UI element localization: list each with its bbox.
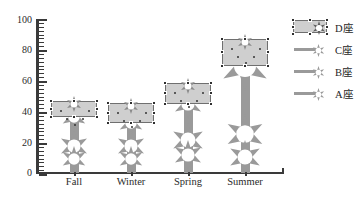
x-tick-label-summer: Summer: [215, 176, 275, 187]
legend-swatch: [292, 63, 332, 79]
selection-handle[interactable]: [49, 115, 53, 119]
data-point-dot: [117, 112, 119, 114]
selection-handle[interactable]: [106, 101, 110, 105]
y-tick-label: 80: [2, 45, 32, 55]
selection-handle[interactable]: [72, 99, 76, 103]
legend-label: C座: [335, 42, 352, 57]
y-tick-label: 60: [2, 76, 32, 86]
y-tick-label: 40: [2, 107, 32, 117]
selection-handle[interactable]: [243, 37, 247, 41]
legend-swatch: [292, 41, 332, 57]
selection-handle[interactable]: [163, 91, 167, 95]
selection-handle[interactable]: [220, 37, 224, 41]
selection-handle[interactable]: [308, 18, 312, 22]
star-marker-icon: [173, 140, 203, 170]
x-tick-label-spring: Spring: [158, 176, 218, 187]
selection-handle[interactable]: [220, 64, 224, 68]
selection-handle[interactable]: [291, 32, 295, 36]
selection-handle[interactable]: [291, 18, 295, 22]
selection-handle[interactable]: [49, 99, 53, 103]
y-axis-labels: 100 80 60 40 20 0: [0, 0, 32, 199]
data-point-dot: [123, 120, 125, 122]
selection-handle[interactable]: [95, 115, 99, 119]
selection-handle[interactable]: [325, 32, 329, 36]
x-tick-label-winter: Winter: [101, 176, 161, 187]
data-point-dot: [196, 100, 198, 102]
selection-handle[interactable]: [209, 102, 213, 106]
selection-handle[interactable]: [186, 102, 190, 106]
legend-item-c[interactable]: C座: [292, 38, 362, 60]
star-marker-icon: [312, 87, 325, 105]
legend-swatch: [292, 19, 332, 35]
selection-handle[interactable]: [220, 50, 224, 54]
legend-item-d[interactable]: D座: [292, 16, 362, 38]
star-marker-icon: [61, 146, 87, 172]
legend-item-b[interactable]: B座: [292, 60, 362, 82]
selection-handle[interactable]: [72, 115, 76, 119]
chart-legend[interactable]: D座C座B座A座: [292, 16, 362, 104]
selection-handle[interactable]: [129, 101, 133, 105]
star-marker-icon: [228, 140, 262, 174]
star-marker-icon: [312, 43, 325, 61]
selection-handle[interactable]: [209, 81, 213, 85]
data-point-dot: [131, 126, 133, 128]
selection-handle[interactable]: [49, 107, 53, 111]
data-point-dot: [202, 92, 204, 94]
selection-handle[interactable]: [325, 25, 329, 29]
selection-handle[interactable]: [163, 81, 167, 85]
selection-handle[interactable]: [186, 81, 190, 85]
selection-handle[interactable]: [106, 111, 110, 115]
selection-handle[interactable]: [95, 99, 99, 103]
selection-handle[interactable]: [266, 64, 270, 68]
legend-label: D座: [335, 20, 353, 35]
selection-handle[interactable]: [266, 37, 270, 41]
data-point-dot: [145, 112, 147, 114]
selection-handle[interactable]: [209, 91, 213, 95]
data-point-dot: [139, 120, 141, 122]
selection-handle[interactable]: [308, 32, 312, 36]
star-marker-icon: [312, 21, 326, 39]
y-tick-label: 20: [2, 138, 32, 148]
data-point-dot: [180, 100, 182, 102]
selection-handle[interactable]: [152, 101, 156, 105]
plot-area: [36, 18, 284, 174]
x-tick-label-fall: Fall: [44, 176, 104, 187]
selection-handle[interactable]: [325, 18, 329, 22]
legend-label: A座: [335, 86, 353, 101]
star-marker-icon: [118, 146, 144, 172]
selection-handle[interactable]: [152, 121, 156, 125]
selection-handle[interactable]: [152, 111, 156, 115]
selection-handle[interactable]: [95, 107, 99, 111]
y-tick-label: 0: [2, 168, 32, 178]
selection-handle[interactable]: [129, 121, 133, 125]
chart-canvas: 100 80 60 40 20 0 FallWinterSpringSummer…: [0, 0, 364, 199]
legend-label: B座: [335, 64, 352, 79]
star-marker-icon: [312, 65, 325, 83]
selection-handle[interactable]: [163, 102, 167, 106]
selection-handle[interactable]: [266, 50, 270, 54]
selection-handle[interactable]: [106, 121, 110, 125]
legend-item-a[interactable]: A座: [292, 82, 362, 104]
selection-handle[interactable]: [291, 25, 295, 29]
data-point-dot: [174, 92, 176, 94]
legend-swatch: [292, 85, 332, 101]
y-tick-label: 100: [2, 15, 32, 25]
selection-handle[interactable]: [243, 64, 247, 68]
